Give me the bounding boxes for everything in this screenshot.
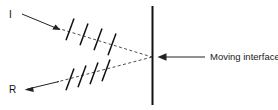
wavefront-tick [66,19,74,41]
interface-pointer-group [158,53,206,60]
wavefront-tick [90,63,98,85]
ray-diagram-figure: I R Moving interface [0,0,278,110]
reflected-ray-dashed-path [57,57,152,82]
incident-wavefront-ticks [66,19,116,56]
reflected-wavefront-ticks [66,60,110,91]
incident-ray-group [22,14,152,57]
wavefront-tick [80,24,88,46]
diagram-canvas: I R Moving interface [0,0,278,110]
reflected-ray-label: R [9,84,16,95]
reflected-ray-arrowhead-icon [25,87,34,92]
interface-pointer-arrowhead-icon [158,53,167,60]
reflected-ray-group [25,57,153,92]
incident-ray-dashed-path [57,28,152,57]
moving-interface-label: Moving interface [210,51,278,62]
incident-ray-label: I [9,9,12,20]
wavefront-tick [102,60,110,82]
wavefront-tick [78,66,86,88]
